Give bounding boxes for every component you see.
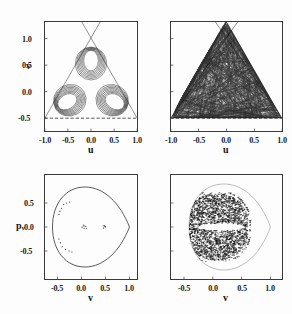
xtick-top-right-1: -0.5 (193, 136, 205, 145)
xtick-bottom-right-1: 0.0 (208, 284, 218, 293)
xtick-bottom-left-3: 1.0 (124, 284, 134, 293)
xtick-top-left-3: 0.5 (109, 136, 119, 145)
xtick-bottom-left-1: 0.0 (76, 284, 86, 293)
xtick-bottom-right-0: -0.5 (178, 284, 190, 293)
xtick-top-right-3: 0.5 (249, 136, 259, 145)
xtick-top-right-0: -1.0 (165, 136, 177, 145)
xlabel-top-right: u (223, 144, 229, 155)
ytick-bottom-left-0: 0.5 (24, 199, 34, 208)
figure-canvas: 1.0 0.5 0.0 -0.5 -1.0 -0.5 0.0 0.5 1.0 v… (0, 0, 292, 314)
ylabel-bottom-left: pv (16, 220, 25, 231)
xtick-bottom-right-2: 0.5 (237, 284, 247, 293)
ytick-bottom-left-2: -0.5 (20, 247, 32, 256)
plot-area-top-right (146, 0, 292, 157)
xtick-top-right-4: 1.0 (277, 136, 287, 145)
ylabel-bottom-left-subscript: v (22, 224, 25, 231)
xlabel-bottom-left: v (88, 292, 93, 303)
xtick-top-left-1: -0.5 (62, 136, 74, 145)
xtick-top-left-4: 1.0 (132, 136, 142, 145)
ylabel-top-left: v (26, 60, 31, 71)
xtick-bottom-left-2: 0.5 (100, 284, 110, 293)
plot-area-top-left (0, 0, 146, 157)
xtick-top-left-0: -1.0 (39, 136, 51, 145)
ytick-top-left-0: 1.0 (22, 34, 32, 43)
ytick-top-left-3: -0.5 (18, 114, 30, 123)
panel-top-left: 1.0 0.5 0.0 -0.5 -1.0 -0.5 0.0 0.5 1.0 v… (0, 0, 146, 157)
xlabel-bottom-right: v (223, 292, 228, 303)
xtick-bottom-right-3: 1.0 (265, 284, 275, 293)
panel-bottom-left: 0.5 0.0 -0.5 -0.5 0.0 0.5 1.0 pv v (0, 157, 146, 314)
xtick-bottom-left-0: -0.5 (51, 284, 63, 293)
panel-bottom-right: -0.5 0.0 0.5 1.0 v (146, 157, 292, 314)
ytick-bottom-left-1: 0.0 (24, 223, 34, 232)
ytick-top-left-2: 0.0 (22, 87, 32, 96)
xlabel-top-left: u (88, 144, 94, 155)
panel-top-right: -1.0 -0.5 0.0 0.5 1.0 u (146, 0, 292, 157)
